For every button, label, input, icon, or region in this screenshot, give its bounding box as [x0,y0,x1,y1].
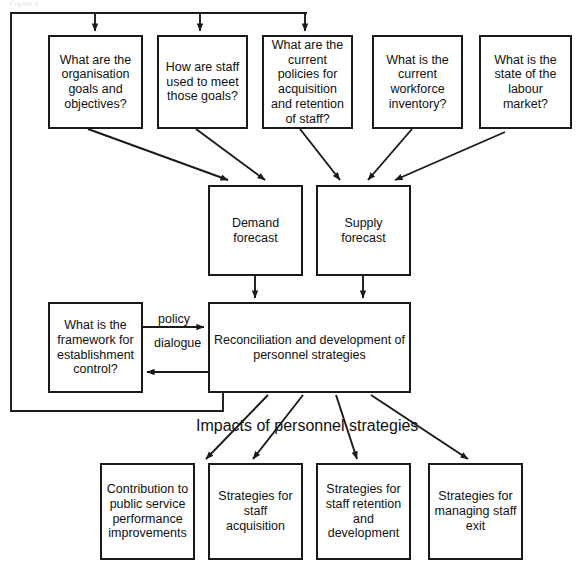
node-framework-establishment-control[interactable]: What is the framework for establishment … [48,302,143,393]
node-label: What is the state of the labour market? [484,53,567,112]
node-label: Contribution to public service performan… [105,482,190,541]
section-title-impacts: Impacts of personnel strategies [196,417,418,435]
node-q-staff-used[interactable]: How are staff used to meet those goals? [157,35,248,129]
node-outcome-contribution[interactable]: Contribution to public service performan… [100,463,195,560]
flowchart-canvas: Figure 1 [0,0,584,570]
node-label: Supply forecast [321,216,406,246]
edge-label-policy: policy [156,312,192,326]
node-label: What is the framework for establishment … [53,318,138,377]
edge-labour-to-supply [395,132,505,180]
node-q-labour-market[interactable]: What is the state of the labour market? [479,35,572,129]
node-outcome-exit[interactable]: Strategies for managing staff exit [428,463,523,560]
node-label: How are staff used to meet those goals? [162,60,243,104]
edge-policies-to-supply [300,129,340,180]
node-reconciliation-development[interactable]: Reconciliation and development of person… [208,302,411,393]
node-label: What are the current policies for acquis… [267,38,348,127]
node-q-current-policies[interactable]: What are the current policies for acquis… [262,35,353,129]
node-supply-forecast[interactable]: Supply forecast [316,185,411,276]
node-label: Reconciliation and development of person… [213,333,406,363]
node-label: What is the current workforce inventory? [377,53,458,112]
node-label: Demand forecast [213,216,298,246]
node-label: Strategies for staff acquisition [213,489,298,533]
node-q-organisation-goals[interactable]: What are the organisation goals and obje… [48,35,143,129]
node-outcome-retention[interactable]: Strategies for staff retention and devel… [316,463,411,560]
node-label: What are the organisation goals and obje… [53,53,138,112]
edge-label-dialogue: dialogue [152,336,203,350]
node-label: Strategies for staff retention and devel… [321,482,406,541]
cut-off-caption: Figure 1 [10,0,39,7]
edge-inventory-to-supply [368,129,412,180]
node-outcome-acquisition[interactable]: Strategies for staff acquisition [208,463,303,560]
node-demand-forecast[interactable]: Demand forecast [208,185,303,276]
node-q-workforce-inventory[interactable]: What is the current workforce inventory? [372,35,463,129]
node-label: Strategies for managing staff exit [433,489,518,533]
